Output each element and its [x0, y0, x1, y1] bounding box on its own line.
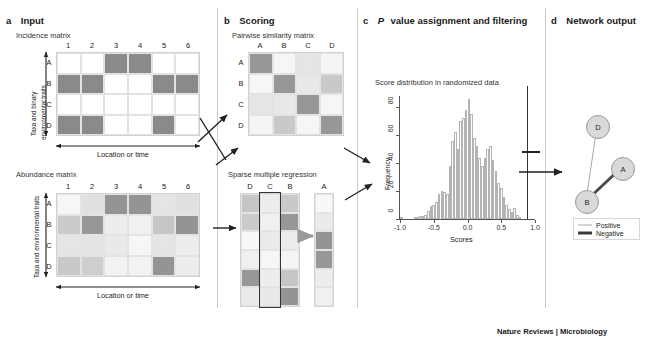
abundance-col-header: 1 — [56, 182, 80, 191]
divider-a-b — [217, 8, 218, 308]
regression-response-cell — [315, 194, 333, 213]
divider-c-d — [545, 8, 546, 308]
incidence-cell — [81, 53, 105, 74]
abundance-row-header: C — [44, 241, 54, 250]
abundance-cell — [81, 235, 105, 256]
similarity-cell — [320, 74, 344, 95]
abundance-cell — [152, 215, 176, 236]
incidence-cell — [57, 115, 81, 136]
regression-predictor-col-header: C — [260, 182, 280, 191]
abundance-cell — [81, 256, 105, 277]
incidence-cell — [81, 94, 105, 115]
chart-x-tick-label: -1.0 — [390, 224, 410, 231]
chart-y-tick-label: 80 — [387, 97, 394, 109]
panel-c-title-italic: P — [378, 15, 384, 26]
abundance-xaxis-label: Location or time — [97, 291, 149, 300]
similarity-cell — [249, 74, 273, 95]
similarity-cell — [249, 115, 273, 136]
abundance-cell — [152, 235, 176, 256]
abundance-cell — [152, 256, 176, 277]
similarity-cell — [296, 53, 320, 74]
regression-predictor-cell — [241, 231, 260, 250]
regression-response-cell — [315, 250, 333, 269]
regression-response-cell — [315, 231, 333, 250]
regression-response-cell — [315, 213, 333, 232]
panel-c-header: c P value assignment and filtering — [363, 10, 527, 28]
similarity-col-header: D — [320, 41, 344, 50]
chart-xlabel: Scores — [450, 235, 473, 244]
incidence-cell — [175, 115, 199, 136]
panel-a-header: a Input — [6, 10, 44, 28]
abundance-cell — [175, 215, 199, 236]
incidence-cell — [128, 74, 152, 95]
abundance-cell — [175, 256, 199, 277]
regression-response-cell — [315, 269, 333, 288]
network-node-a[interactable]: A — [611, 157, 635, 181]
incidence-col-header: 3 — [104, 41, 128, 50]
similarity-cell — [320, 115, 344, 136]
similarity-cell — [273, 115, 297, 136]
abundance-cell — [128, 235, 152, 256]
source-credit: Nature Reviews | Microbiology — [497, 327, 607, 336]
chart-y-tick — [396, 163, 399, 164]
regression-predictor-cell — [280, 250, 299, 269]
abundance-cell — [57, 256, 81, 277]
abundance-cell — [81, 194, 105, 215]
chart-y-tick-label: 0 — [387, 209, 394, 221]
abundance-cell — [104, 235, 128, 256]
abundance-cell — [104, 194, 128, 215]
chart-x-tick-label: 0.0 — [458, 224, 478, 231]
similarity-grid — [248, 52, 344, 136]
regression-predictor-cell — [241, 287, 260, 306]
regression-predictor-cell — [280, 194, 299, 213]
regression-response-grid — [314, 193, 334, 307]
incidence-cell — [152, 94, 176, 115]
incidence-col-header: 5 — [152, 41, 176, 50]
panel-a-letter: a — [6, 15, 11, 26]
similarity-col-header: A — [248, 41, 272, 50]
divider-b-c — [357, 8, 358, 308]
regression-highlight-box — [259, 192, 281, 308]
similarity-matrix-caption: Pairwise similarity matrix — [232, 31, 314, 40]
incidence-cell — [152, 53, 176, 74]
incidence-col-header: 2 — [80, 41, 104, 50]
arrow-regression-to-chart — [345, 184, 372, 200]
chart-x-tick — [468, 220, 469, 223]
incidence-cell — [175, 74, 199, 95]
chart-x-tick — [400, 220, 401, 223]
incidence-cell — [104, 115, 128, 136]
chart-ylabel: Frequency — [384, 158, 391, 190]
abundance-cell — [81, 215, 105, 236]
chart-y-tick — [396, 135, 399, 136]
chart-y-tick — [396, 107, 399, 108]
chart-x-tick-label: 0.5 — [491, 224, 511, 231]
incidence-yaxis-label-line1: Taxa and binary — [30, 92, 37, 136]
network-node-d[interactable]: D — [586, 115, 610, 139]
legend-label-negative: Negative — [596, 230, 624, 237]
abundance-cell — [175, 194, 199, 215]
panel-b-title: Scoring — [239, 15, 274, 26]
incidence-yaxis-label-line2: environmental traits — [40, 85, 47, 140]
legend-item-positive: Positive — [578, 221, 635, 229]
incidence-col-header: 1 — [56, 41, 80, 50]
abundance-cell — [57, 235, 81, 256]
network-node-b-label: B — [584, 198, 589, 207]
abundance-cell — [128, 256, 152, 277]
similarity-cell — [320, 53, 344, 74]
abundance-cell — [57, 194, 81, 215]
similarity-col-header: C — [296, 41, 320, 50]
incidence-cell — [128, 94, 152, 115]
incidence-grid — [56, 52, 200, 136]
significance-threshold-line — [527, 86, 528, 219]
chart-y-axis — [399, 96, 400, 220]
abundance-col-header: 6 — [176, 182, 200, 191]
network-node-b[interactable]: B — [575, 190, 599, 214]
abundance-cell — [104, 256, 128, 277]
chart-x-tick — [501, 220, 502, 223]
incidence-cell — [104, 74, 128, 95]
regression-response-col-header: A — [314, 182, 334, 191]
regression-predictor-cell — [241, 250, 260, 269]
incidence-col-header: 4 — [128, 41, 152, 50]
arrow-incidence-to-regression — [200, 118, 226, 160]
abundance-row-header: A — [44, 199, 54, 208]
